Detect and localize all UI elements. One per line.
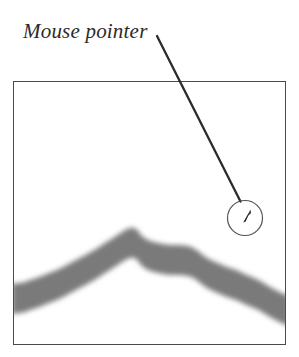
figure-mouse-pointer: Mouse pointer xyxy=(0,0,299,357)
terrain-band-path xyxy=(13,228,286,326)
callout-circle xyxy=(228,201,263,236)
annotation-label: Mouse pointer xyxy=(23,18,148,44)
